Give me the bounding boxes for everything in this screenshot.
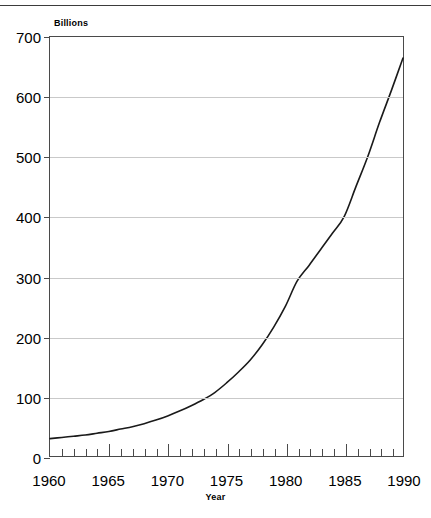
x-axis-minor-tick	[334, 449, 335, 456]
y-gridline	[50, 398, 403, 399]
header-divider	[0, 5, 431, 6]
x-axis-minor-tick	[239, 449, 240, 456]
y-axis-unit-label: Billions	[54, 18, 88, 28]
x-axis-minor-tick	[74, 449, 75, 456]
y-gridline	[50, 278, 403, 279]
x-axis-minor-tick	[204, 449, 205, 456]
y-gridline	[50, 338, 403, 339]
y-axis-tick-label: 100	[0, 389, 41, 406]
x-axis-minor-tick	[299, 449, 300, 456]
x-axis-minor-tick	[133, 449, 134, 456]
x-axis-minor-tick	[393, 449, 394, 456]
x-axis-tick-label: 1965	[91, 472, 124, 489]
y-axis-tick	[44, 157, 50, 158]
y-gridline	[50, 97, 403, 98]
y-gridline	[50, 157, 403, 158]
x-axis-title: Year	[0, 492, 431, 502]
x-axis-minor-tick	[275, 449, 276, 456]
x-axis-minor-tick	[370, 449, 371, 456]
x-axis-minor-tick	[381, 449, 382, 456]
y-axis-tick	[44, 37, 50, 38]
x-axis-minor-tick	[180, 449, 181, 456]
x-axis-minor-tick	[216, 449, 217, 456]
x-axis-minor-tick	[145, 449, 146, 456]
y-axis-tick-label: 0	[0, 450, 41, 467]
y-axis-tick-label: 600	[0, 89, 41, 106]
y-axis-tick	[44, 278, 50, 279]
x-axis-tick-label: 1990	[387, 472, 420, 489]
x-axis-major-tick	[346, 444, 347, 456]
plot-area: 0100200300400500600700	[49, 36, 404, 457]
x-axis-minor-tick	[310, 449, 311, 456]
x-axis-minor-tick	[322, 449, 323, 456]
y-axis-tick	[44, 398, 50, 399]
y-axis-tick	[44, 458, 50, 459]
x-axis-major-tick	[168, 444, 169, 456]
x-axis-minor-tick	[358, 449, 359, 456]
x-axis-major-tick	[228, 444, 229, 456]
y-axis-tick-label: 700	[0, 29, 41, 46]
x-axis-minor-tick	[263, 449, 264, 456]
x-axis-minor-tick	[97, 449, 98, 456]
x-axis-minor-tick	[121, 449, 122, 456]
y-gridline	[50, 217, 403, 218]
y-axis-tick-label: 500	[0, 149, 41, 166]
series-path	[50, 58, 403, 439]
y-axis-tick-label: 200	[0, 329, 41, 346]
y-axis-tick	[44, 217, 50, 218]
y-axis-tick	[44, 97, 50, 98]
x-axis-minor-tick	[157, 449, 158, 456]
x-axis-tick-label: 1970	[151, 472, 184, 489]
x-axis-minor-tick	[251, 449, 252, 456]
x-axis-tick-label: 1975	[210, 472, 243, 489]
x-axis-major-tick	[109, 444, 110, 456]
x-axis-tick-label: 1980	[269, 472, 302, 489]
y-axis-tick	[44, 338, 50, 339]
x-axis-minor-tick	[192, 449, 193, 456]
y-axis-tick-label: 300	[0, 269, 41, 286]
chart-page: Billions 0100200300400500600700 Year 196…	[0, 0, 431, 518]
data-series-line	[50, 37, 403, 456]
x-axis-tick-label: 1985	[328, 472, 361, 489]
x-axis-minor-tick	[86, 449, 87, 456]
y-axis-tick-label: 400	[0, 209, 41, 226]
x-axis-minor-tick	[62, 449, 63, 456]
x-axis-major-tick	[287, 444, 288, 456]
x-axis-tick-label: 1960	[32, 472, 65, 489]
